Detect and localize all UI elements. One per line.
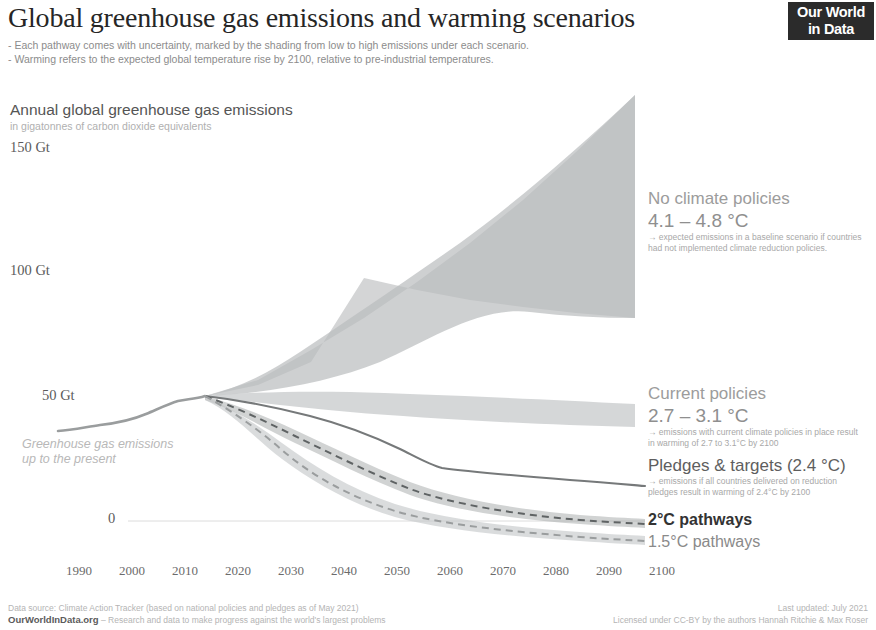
- x-tick-label-2060: 2060: [428, 563, 472, 579]
- x-tick-label-2040: 2040: [322, 563, 366, 579]
- legend-no-climate-policies-temp: 4.1 – 4.8 °C: [648, 209, 863, 232]
- footer-updated: Last updated: July 2021: [778, 602, 868, 614]
- chart-footer: Data source: Climate Action Tracker (bas…: [8, 602, 868, 626]
- x-tick-label-2000: 2000: [110, 563, 154, 579]
- x-tick-label-2080: 2080: [534, 563, 578, 579]
- legend-2c-pathways[interactable]: 2°C pathways: [648, 509, 752, 530]
- historical-annotation-line1: Greenhouse gas emissions: [22, 437, 173, 452]
- footer-row-source: Data source: Climate Action Tracker (bas…: [8, 602, 868, 614]
- footer-source: Data source: Climate Action Tracker (bas…: [8, 602, 359, 614]
- footer-brand-group[interactable]: OurWorldInData.org – Research and data t…: [8, 614, 386, 626]
- legend-pledges-targets-desc: → emissions if all countries delivered o…: [648, 476, 863, 497]
- x-tick-label-2100: 2100: [640, 563, 684, 579]
- x-tick-label-2030: 2030: [269, 563, 313, 579]
- legend-15c-pathways[interactable]: 1.5°C pathways: [648, 531, 760, 552]
- legend-pledges-targets[interactable]: Pledges & targets (2.4 °C) → emissions i…: [648, 455, 863, 497]
- footer-row-brand: OurWorldInData.org – Research and data t…: [8, 614, 868, 626]
- legend-no-climate-policies-desc: → expected emissions in a baseline scena…: [648, 232, 863, 253]
- x-tick-label-2010: 2010: [163, 563, 207, 579]
- y-tick-label-0: 0: [108, 510, 115, 527]
- x-tick-label-2090: 2090: [587, 563, 631, 579]
- historical-annotation: Greenhouse gas emissions up to the prese…: [22, 437, 173, 467]
- y-tick-label-100: 100 Gt: [10, 262, 50, 279]
- legend-pledges-targets-label: Pledges & targets (2.4 °C): [648, 455, 863, 476]
- legend-no-climate-policies[interactable]: No climate policies 4.1 – 4.8 °C → expec…: [648, 188, 863, 253]
- line-historical-emissions: [58, 396, 205, 431]
- footer-brand-link[interactable]: OurWorldInData.org: [8, 614, 99, 625]
- x-tick-label-1990: 1990: [57, 563, 101, 579]
- footer-brand-tagline: – Research and data to make progress aga…: [101, 615, 386, 625]
- legend-15c-pathways-label: 1.5°C pathways: [648, 531, 760, 552]
- x-tick-label-2070: 2070: [481, 563, 525, 579]
- x-tick-label-2050: 2050: [375, 563, 419, 579]
- legend-no-climate-policies-label: No climate policies: [648, 188, 863, 209]
- historical-annotation-line2: up to the present: [22, 452, 173, 467]
- y-tick-label-150: 150 Gt: [10, 139, 50, 156]
- legend-current-policies[interactable]: Current policies 2.7 – 3.1 °C → emission…: [648, 383, 863, 448]
- footer-license: Licensed under CC-BY by the authors Hann…: [613, 614, 868, 626]
- legend-current-policies-temp: 2.7 – 3.1 °C: [648, 404, 863, 427]
- chart-root: Global greenhouse gas emissions and warm…: [0, 0, 876, 630]
- legend-current-policies-label: Current policies: [648, 383, 863, 404]
- legend-2c-pathways-label: 2°C pathways: [648, 509, 752, 530]
- legend-current-policies-desc: → emissions with current climate policie…: [648, 427, 863, 448]
- y-tick-label-50: 50 Gt: [42, 387, 75, 404]
- x-tick-label-2020: 2020: [216, 563, 260, 579]
- band-no-climate-policies-fill: [205, 95, 635, 396]
